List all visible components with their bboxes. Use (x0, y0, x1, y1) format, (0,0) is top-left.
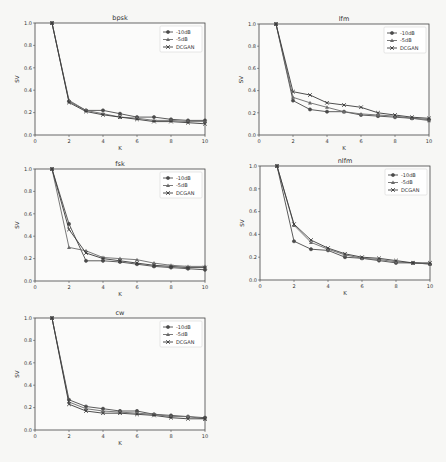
y-tick-label: 0.0 (24, 132, 32, 138)
y-tick-label: 0.2 (24, 109, 32, 115)
y-tick-label: 0.6 (24, 211, 32, 217)
x-tick-label: 8 (169, 433, 172, 439)
x-tick-label: 0 (33, 284, 36, 290)
y-tick-label: 1.0 (24, 166, 32, 172)
chart-title: bpsk (112, 14, 128, 22)
y-tick-label: 1.0 (24, 315, 32, 321)
x-tick-label: 6 (135, 138, 138, 144)
y-tick-label: 1.0 (248, 21, 256, 27)
x-tick-label: 6 (135, 284, 138, 290)
x-tick-label: 6 (359, 138, 362, 144)
x-axis-label: K (342, 145, 346, 151)
x-tick-label: 6 (360, 283, 363, 289)
x-tick-label: 2 (291, 138, 294, 144)
legend: -10dB-5dBDCGAN (385, 169, 427, 195)
x-tick-label: 2 (292, 283, 295, 289)
legend: -10dB-5dBDCGAN (384, 27, 426, 53)
chart-title: lfm (339, 15, 349, 23)
legend-entry: -10dB (401, 172, 416, 178)
x-axis-label: K (118, 291, 122, 297)
x-tick-label: 4 (101, 433, 104, 439)
y-axis-label: SV (239, 219, 245, 226)
y-tick-label: 0.8 (24, 42, 32, 48)
y-axis-label: SV (14, 370, 20, 377)
y-tick-label: 0.6 (248, 65, 256, 71)
x-tick-label: 10 (202, 284, 208, 290)
legend-entry: -10dB (400, 30, 415, 36)
x-tick-label: 10 (202, 138, 208, 144)
x-tick-label: 8 (169, 138, 172, 144)
y-tick-label: 0.6 (24, 65, 32, 71)
x-tick-label: 2 (67, 138, 70, 144)
y-tick-label: 0.2 (24, 404, 32, 410)
legend-entry: DCGAN (176, 44, 195, 50)
legend-entry: DCGAN (176, 339, 195, 345)
y-tick-label: 0.6 (24, 360, 32, 366)
y-tick-label: 0.8 (24, 188, 32, 194)
x-axis-label: K (343, 290, 347, 296)
y-axis-label: SV (14, 75, 20, 82)
chart-title: fsk (115, 160, 125, 168)
y-tick-label: 0.6 (249, 208, 257, 214)
legend-entry: DCGAN (401, 187, 420, 193)
x-tick-label: 0 (33, 138, 36, 144)
x-tick-label: 10 (426, 138, 432, 144)
y-tick-label: 0.2 (248, 110, 256, 116)
legend: -10dB-5dBDCGAN (160, 321, 202, 347)
x-tick-label: 8 (394, 283, 397, 289)
chart-title: cw (116, 309, 126, 317)
legend-entry: DCGAN (400, 45, 419, 51)
y-tick-label: 0.4 (24, 233, 32, 239)
y-tick-label: 0.8 (24, 337, 32, 343)
x-tick-label: 8 (393, 138, 396, 144)
legend-entry: -5dB (400, 37, 412, 43)
y-tick-label: 1.0 (249, 163, 257, 169)
x-tick-label: 2 (67, 433, 70, 439)
legend-entry: -5dB (401, 179, 413, 185)
x-tick-label: 4 (101, 284, 104, 290)
legend: -10dB-5dBDCGAN (160, 172, 202, 198)
y-axis-label: SV (238, 76, 244, 83)
y-tick-label: 0.0 (24, 427, 32, 433)
x-tick-label: 0 (33, 433, 36, 439)
figure: bpsk0.00.20.40.60.81.00246810KSV-10dB-5d… (0, 0, 446, 462)
legend-entry: -10dB (176, 324, 191, 330)
chart-cw: cw0.00.20.40.60.81.00246810KSV-10dB-5dBD… (14, 309, 208, 446)
y-tick-label: 0.0 (24, 278, 32, 284)
x-tick-label: 4 (326, 283, 329, 289)
chart-lfm: lfm0.00.20.40.60.81.00246810KSV-10dB-5dB… (238, 15, 432, 151)
y-tick-label: 0.4 (24, 382, 32, 388)
x-tick-label: 8 (169, 284, 172, 290)
x-tick-label: 2 (67, 284, 70, 290)
chart-fsk: fsk0.00.20.40.60.81.00246810KSV-10dB-5dB… (14, 160, 208, 297)
x-tick-label: 4 (325, 138, 328, 144)
y-tick-label: 0.4 (249, 231, 257, 237)
x-tick-label: 0 (257, 138, 260, 144)
x-tick-label: 10 (202, 433, 208, 439)
y-tick-label: 0.0 (249, 277, 257, 283)
legend-entry: DCGAN (176, 190, 195, 196)
y-tick-label: 0.4 (248, 87, 256, 93)
y-tick-label: 1.0 (24, 20, 32, 26)
x-axis-label: K (118, 440, 122, 446)
legend-entry: -5dB (176, 182, 188, 188)
y-tick-label: 0.8 (249, 186, 257, 192)
legend-entry: -10dB (176, 29, 191, 35)
y-tick-label: 0.2 (249, 254, 257, 260)
x-tick-label: 0 (258, 283, 261, 289)
legend-entry: -5dB (176, 36, 188, 42)
y-tick-label: 0.0 (248, 132, 256, 138)
legend-entry: -5dB (176, 331, 188, 337)
y-axis-label: SV (14, 221, 20, 228)
legend-entry: -10dB (176, 175, 191, 181)
y-tick-label: 0.8 (248, 43, 256, 49)
chart-nlfm: nlfm0.00.20.40.60.81.00246810KSV-10dB-5d… (239, 157, 433, 296)
chart-title: nlfm (338, 157, 353, 165)
legend: -10dB-5dBDCGAN (160, 26, 202, 52)
x-axis-label: K (118, 145, 122, 151)
x-tick-label: 6 (135, 433, 138, 439)
y-tick-label: 0.4 (24, 87, 32, 93)
chart-bpsk: bpsk0.00.20.40.60.81.00246810KSV-10dB-5d… (14, 14, 208, 151)
y-tick-label: 0.2 (24, 255, 32, 261)
x-tick-label: 4 (101, 138, 104, 144)
